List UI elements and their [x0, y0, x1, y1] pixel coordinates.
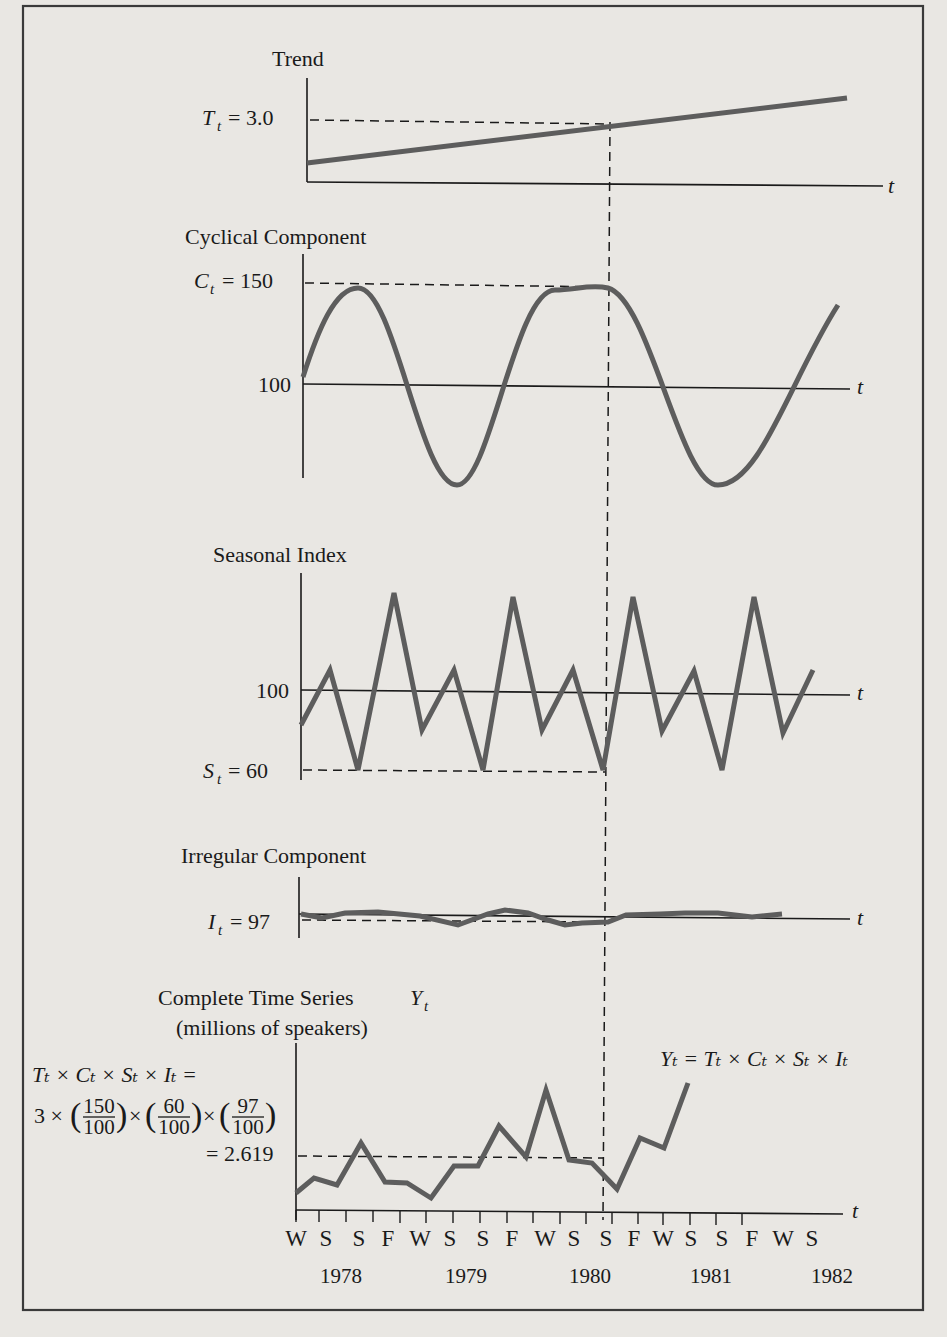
svg-text:t: t	[210, 281, 215, 297]
complete-time-series-line	[296, 1083, 688, 1198]
trend-line	[307, 98, 847, 163]
svg-text:= 97: = 97	[230, 909, 270, 934]
svg-text:= 60: = 60	[228, 758, 268, 783]
year-labels: 1978 1979 1980 1981 1982	[320, 1264, 853, 1288]
svg-text:(: (	[145, 1096, 156, 1134]
seasonal-index-line	[301, 593, 813, 770]
svg-text:S: S	[353, 1226, 366, 1251]
svg-text:F: F	[746, 1226, 759, 1251]
svg-text:S: S	[685, 1226, 698, 1251]
decomposition-formula: Tₜ × Cₜ × Sₜ × Iₜ =	[32, 1062, 197, 1087]
svg-text:S: S	[806, 1226, 819, 1251]
svg-text:W: W	[652, 1226, 674, 1251]
svg-text:t: t	[218, 922, 223, 938]
numeric-formula: 3 × ( 150 100 ) × ( 60 100 ) × ( 97 10	[34, 1094, 276, 1139]
trend-title: Trend	[272, 46, 324, 71]
seasonal-panel: Seasonal Index t 100 S t = 60	[203, 542, 864, 787]
irregular-axis-var: t	[857, 905, 864, 930]
svg-text:I: I	[207, 909, 217, 934]
svg-text:3 ×: 3 ×	[34, 1103, 63, 1128]
svg-text:t: t	[217, 771, 222, 787]
svg-text:t: t	[424, 998, 429, 1014]
svg-text:W: W	[409, 1226, 431, 1251]
svg-text:1978: 1978	[320, 1264, 362, 1288]
svg-text:): )	[116, 1096, 127, 1134]
svg-text:1979: 1979	[445, 1264, 487, 1288]
fraction-irregular: ( 97 100 )	[219, 1094, 276, 1139]
svg-text:): )	[191, 1096, 202, 1134]
svg-text:C: C	[194, 268, 209, 293]
svg-text:= 150: = 150	[222, 268, 273, 293]
svg-text:S: S	[203, 758, 214, 783]
svg-text:T: T	[202, 105, 216, 130]
cyclical-panel: Cyclical Component t 100 C t = 150	[185, 224, 864, 485]
svg-text:S: S	[568, 1226, 581, 1251]
svg-text:100: 100	[158, 1115, 190, 1139]
complete-series-title: Complete Time Series Y t	[158, 985, 429, 1014]
svg-text:): )	[265, 1096, 276, 1134]
multiplicative-model-label: Yₜ = Tₜ × Cₜ × Sₜ × Iₜ	[660, 1046, 849, 1071]
fraction-cyclical: ( 150 100 )	[70, 1094, 127, 1139]
svg-text:F: F	[628, 1226, 641, 1251]
svg-text:S: S	[477, 1226, 490, 1251]
svg-text:W: W	[534, 1226, 556, 1251]
svg-text:100: 100	[232, 1115, 264, 1139]
complete-axis-var: t	[852, 1198, 859, 1223]
svg-text:×: ×	[203, 1103, 215, 1128]
time-series-decomposition-figure: Trend t T t = 3.0 Cyclical Component t 1…	[0, 0, 947, 1337]
seasonal-value-label: S t = 60	[203, 758, 268, 787]
svg-text:100: 100	[83, 1115, 115, 1139]
seasonal-axis-var: t	[857, 680, 864, 705]
cyclical-baseline-label: 100	[258, 372, 291, 397]
svg-text:F: F	[506, 1226, 519, 1251]
svg-text:W: W	[772, 1226, 794, 1251]
seasonal-title: Seasonal Index	[213, 542, 347, 567]
trend-axis-var: t	[888, 173, 895, 198]
svg-text:= 3.0: = 3.0	[228, 105, 273, 130]
svg-text:F: F	[382, 1226, 395, 1251]
svg-text:1980: 1980	[569, 1264, 611, 1288]
complete-series-subtitle: (millions of speakers)	[176, 1015, 368, 1040]
season-labels: W S S F W S S F W S S F W S S F W S	[285, 1226, 818, 1251]
svg-text:Complete Time Series: Complete Time Series	[158, 985, 354, 1010]
seasonal-baseline-label: 100	[256, 678, 289, 703]
complete-series-panel: Complete Time Series Y t (millions of sp…	[32, 985, 859, 1225]
svg-text:1981: 1981	[690, 1264, 732, 1288]
svg-text:t: t	[217, 118, 222, 134]
svg-text:S: S	[320, 1226, 333, 1251]
svg-text:S: S	[600, 1226, 613, 1251]
cyclical-value-label: C t = 150	[194, 268, 273, 297]
svg-text:×: ×	[129, 1103, 141, 1128]
svg-text:(: (	[219, 1096, 230, 1134]
svg-text:W: W	[285, 1226, 307, 1251]
trend-value-label: T t = 3.0	[202, 105, 273, 134]
fraction-seasonal: ( 60 100 )	[145, 1094, 202, 1139]
cyclical-axis-var: t	[857, 374, 864, 399]
svg-text:1982: 1982	[811, 1264, 853, 1288]
svg-text:S: S	[444, 1226, 457, 1251]
result-value-label: = 2.619	[206, 1141, 273, 1166]
svg-text:(: (	[70, 1096, 81, 1134]
irregular-title: Irregular Component	[181, 843, 366, 868]
cyclical-title: Cyclical Component	[185, 224, 366, 249]
svg-text:S: S	[716, 1226, 729, 1251]
svg-text:Y: Y	[410, 985, 425, 1010]
trend-panel: Trend t T t = 3.0	[202, 46, 895, 198]
irregular-value-label: I t = 97	[207, 909, 270, 938]
irregular-panel: Irregular Component t I t = 97	[181, 843, 864, 938]
